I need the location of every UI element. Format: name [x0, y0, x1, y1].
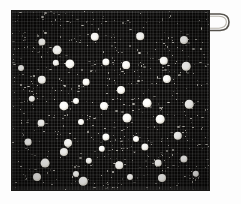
weave-speckle: [43, 182, 44, 183]
weave-speckle: [46, 67, 47, 68]
weave-speckle: [207, 64, 209, 65]
weave-speckle: [130, 115, 131, 116]
weave-speckle: [93, 118, 96, 119]
weave-speckle: [78, 88, 80, 89]
weave-speckle: [173, 79, 174, 80]
weave-speckle: [144, 105, 147, 106]
weave-speckle: [162, 19, 163, 21]
weave-speckle: [70, 108, 71, 110]
weave-speckle: [24, 141, 26, 142]
weave-speckle: [76, 165, 77, 166]
weave-speckle: [87, 84, 88, 85]
weave-speckle: [202, 42, 203, 43]
vignette-overlay: [12, 11, 209, 190]
weave-speckle: [75, 181, 76, 182]
weave-speckle: [153, 96, 156, 97]
weave-speckle: [185, 115, 186, 116]
weave-speckle: [136, 83, 138, 84]
weave-speckle: [191, 122, 192, 123]
weave-speckle: [148, 140, 149, 141]
weave-speckle: [34, 130, 35, 131]
weave-speckle: [162, 107, 163, 108]
weave-speckle: [72, 165, 73, 166]
weave-speckle: [164, 69, 167, 71]
polka-dot: [127, 174, 133, 180]
weave-speckle: [177, 23, 178, 24]
weave-speckle: [53, 117, 55, 118]
weave-speckle: [194, 103, 195, 104]
weave-speckle: [176, 61, 177, 62]
weave-speckle: [152, 58, 154, 59]
weave-speckle: [167, 138, 168, 139]
weave-speckle: [55, 90, 56, 91]
weave-speckle: [125, 120, 126, 121]
weave-speckle: [14, 81, 15, 82]
weave-speckle: [108, 150, 111, 151]
weave-speckle: [193, 189, 194, 190]
weave-speckle: [171, 37, 173, 38]
weave-speckle: [87, 34, 89, 35]
weave-speckle: [189, 178, 191, 179]
weave-speckle: [37, 98, 38, 99]
weave-speckle: [77, 74, 78, 75]
weave-speckle: [79, 42, 81, 43]
weave-speckle: [117, 98, 118, 99]
weave-speckle: [178, 166, 179, 167]
weave-speckle: [177, 144, 178, 145]
weave-speckle: [201, 85, 202, 86]
weave-speckle: [88, 130, 89, 131]
weave-speckle: [33, 47, 34, 48]
weave-speckle: [101, 114, 102, 115]
weave-speckle: [206, 159, 209, 160]
weave-speckle: [127, 148, 128, 149]
weave-speckle: [29, 90, 30, 92]
weave-speckle: [198, 144, 201, 145]
weave-speckle: [159, 107, 162, 109]
weave-speckle: [14, 48, 15, 50]
weave-speckle: [92, 125, 94, 126]
weave-speckle: [52, 87, 53, 89]
weave-speckle: [13, 54, 14, 55]
weave-speckle: [143, 64, 144, 65]
polka-dot: [193, 171, 199, 177]
weave-speckle: [13, 106, 14, 107]
weave-speckle: [123, 129, 125, 130]
weave-speckle: [161, 141, 162, 142]
weave-speckle: [14, 92, 15, 93]
weave-speckle: [102, 109, 104, 110]
weave-speckle: [34, 155, 36, 156]
weave-speckle: [33, 108, 34, 109]
weave-speckle: [139, 167, 141, 168]
weave-speckle: [67, 147, 69, 148]
weave-speckle: [195, 39, 197, 40]
weave-speckle: [69, 40, 70, 41]
weave-speckle: [204, 57, 205, 58]
weave-speckle: [114, 122, 115, 123]
weave-speckle: [20, 58, 22, 59]
weave-speckle: [117, 168, 119, 169]
weave-speckle: [96, 60, 97, 61]
weave-speckle: [162, 67, 164, 68]
polka-dot: [123, 114, 132, 123]
weave-speckle: [102, 18, 104, 19]
weave-speckle: [37, 35, 39, 37]
weave-speckle: [118, 161, 119, 162]
weave-speckle: [178, 183, 179, 184]
weave-speckle: [15, 187, 16, 188]
weave-speckle: [180, 31, 182, 32]
weave-speckle: [172, 165, 175, 166]
weave-speckle: [94, 64, 96, 65]
weave-speckle: [47, 52, 48, 53]
weave-speckle: [38, 126, 39, 127]
weave-speckle: [101, 23, 102, 24]
weave-speckle: [55, 131, 56, 132]
weave-speckle: [132, 160, 133, 161]
weave-speckle: [26, 178, 27, 179]
polka-dot: [102, 133, 109, 140]
weave-speckle: [177, 47, 178, 48]
weave-speckle: [44, 12, 47, 14]
weave-speckle: [149, 106, 152, 108]
weave-speckle: [20, 109, 21, 110]
weave-speckle: [54, 99, 55, 100]
weave-speckle: [105, 21, 107, 22]
